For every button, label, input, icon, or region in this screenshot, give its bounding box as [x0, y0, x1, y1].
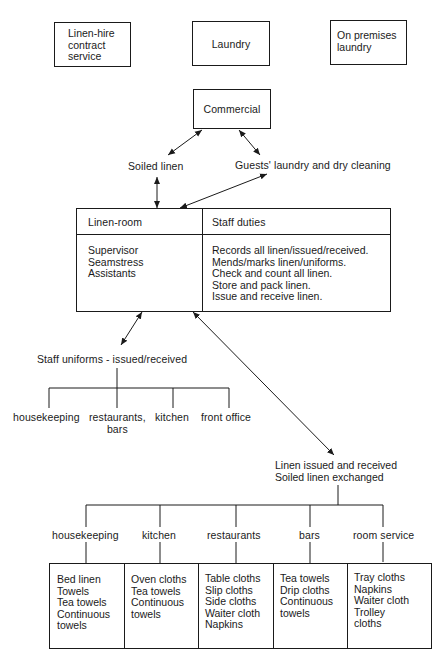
uniforms-title: Staff uniforms - issued/received — [37, 353, 187, 365]
exchange-dept-kitchen: kitchen — [142, 529, 176, 541]
commercial-label: Commercial — [203, 103, 260, 115]
linen-item: Tea towels — [280, 573, 333, 585]
items-divider — [124, 564, 125, 648]
linen-item: Table cloths — [205, 573, 260, 585]
uniform-dept-kitchen: kitchen — [155, 411, 189, 423]
linen-item: towels — [131, 609, 186, 621]
linen-item: Oven cloths — [131, 574, 186, 586]
staff-item: Supervisor — [88, 245, 143, 257]
linen-item: Bed linen — [57, 574, 110, 586]
housekeeping-items: Bed linen Towels Tea towels Continuous t… — [57, 574, 110, 632]
staff-list: Supervisor Seamstress Assistants — [88, 245, 143, 280]
bars-items: Tea towels Drip cloths Continuous towels — [280, 573, 333, 619]
arrow-linenroom-exchange — [193, 312, 334, 455]
items-divider — [273, 564, 274, 648]
linen-item: Tray cloths — [354, 572, 409, 584]
linen-exchange-title-1: Linen issued and received — [275, 459, 397, 471]
duties-list: Records all linen/issued/received. Mends… — [212, 245, 368, 303]
exchange-dept-restaurants: restaurants — [207, 529, 261, 541]
exchange-dept-bars: bars — [299, 529, 320, 541]
laundry-label: Laundry — [212, 38, 251, 50]
linen-item: cloths — [354, 618, 409, 630]
uniform-dept-front-office: front office — [201, 411, 251, 423]
linen-hire-box: Linen-hire contract service — [54, 22, 131, 67]
linen-room-header: Linen-room — [88, 216, 142, 228]
on-premises-laundry-box: On premises laundry — [330, 20, 407, 65]
commercial-box: Commercial — [193, 89, 271, 129]
uniform-dept-restaurants-bars: restaurants, bars — [89, 411, 146, 435]
linen-exchange-title: Linen issued and received Soiled linen e… — [275, 459, 397, 483]
guests-laundry-label: Guests' laundry and dry cleaning — [235, 159, 391, 171]
staff-duties-header: Staff duties — [212, 216, 266, 228]
soiled-linen-label: Soiled linen — [128, 160, 184, 172]
linen-item: towels — [280, 608, 333, 620]
linen-hire-label-1: Linen-hire — [68, 28, 115, 40]
restaurants-items: Table cloths Slip cloths Side cloths Wai… — [205, 573, 260, 631]
table-divider-horizontal — [77, 234, 390, 235]
exchange-dept-housekeeping: housekeeping — [52, 529, 119, 541]
arrow-commercial-guests — [239, 130, 260, 155]
room-service-items: Tray cloths Napkins Waiter cloth Trolley… — [354, 572, 409, 630]
linen-item: Napkins — [205, 619, 260, 631]
on-premises-label-1: On premises — [337, 30, 397, 42]
linen-hire-label-3: service — [68, 51, 115, 63]
arrow-commercial-soiled — [168, 130, 202, 155]
linen-items-table: Bed linen Towels Tea towels Continuous t… — [49, 563, 432, 649]
staff-item: Assistants — [88, 268, 143, 280]
laundry-box: Laundry — [192, 21, 270, 66]
uniform-dept-housekeeping: housekeeping — [13, 411, 80, 423]
arrow-guests-linenroom — [180, 174, 267, 208]
items-divider — [347, 564, 348, 648]
arrow-linenroom-uniforms — [121, 312, 142, 345]
table-divider-vertical — [202, 209, 203, 311]
duty-item: Issue and receive linen. — [212, 291, 368, 303]
exchange-dept-room-service: room service — [353, 529, 414, 541]
linen-item: towels — [57, 620, 110, 632]
on-premises-label-2: laundry — [337, 42, 397, 54]
linen-exchange-title-2: Soiled linen exchanged — [275, 471, 397, 483]
items-divider — [198, 564, 199, 648]
kitchen-items: Oven cloths Tea towels Continuous towels — [131, 574, 186, 620]
duty-item: Records all linen/issued/received. — [212, 245, 368, 257]
linen-room-table: Linen-room Staff duties Supervisor Seams… — [76, 208, 391, 312]
